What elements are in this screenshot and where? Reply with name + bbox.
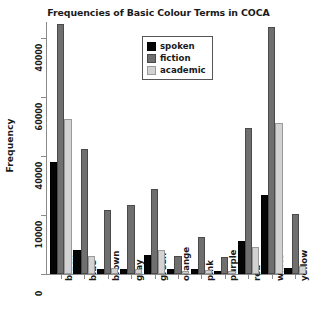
bar-yellow-fiction (292, 214, 299, 274)
bar-group (284, 20, 306, 274)
x-tick-mark (155, 275, 156, 279)
bar-red-fiction (245, 128, 252, 274)
bar-brown-fiction (104, 210, 111, 274)
bar-yellow-academic (299, 266, 306, 274)
bar-pink-spoken (191, 269, 198, 274)
bar-group (97, 20, 119, 274)
bar-blue-academic (88, 256, 95, 274)
legend-item-fiction: fiction (147, 52, 206, 64)
bar-gray-academic (135, 269, 142, 274)
bar-group (50, 20, 72, 274)
legend-swatch-spoken (147, 42, 156, 51)
legend-item-spoken: spoken (147, 40, 206, 52)
legend-swatch-fiction (147, 54, 156, 63)
x-tick-mark (295, 275, 296, 279)
bar-orange-academic (182, 271, 189, 274)
bar-white-fiction (268, 27, 275, 275)
legend-item-academic: academic (147, 64, 206, 76)
bar-group (73, 20, 95, 274)
bar-white-spoken (261, 195, 268, 274)
bar-brown-academic (111, 268, 118, 274)
bar-blue-fiction (81, 149, 88, 274)
bar-white-academic (275, 123, 282, 274)
bar-group (238, 20, 260, 274)
bar-green-fiction (151, 189, 158, 274)
bar-blue-spoken (73, 250, 80, 274)
x-tick-mark (178, 275, 179, 279)
y-tick-label: 10000 (35, 214, 44, 254)
bar-pink-academic (205, 270, 212, 274)
bar-orange-fiction (174, 256, 181, 274)
bar-pink-fiction (198, 237, 205, 274)
x-tick-mark (225, 275, 226, 279)
bar-gray-fiction (127, 205, 134, 274)
bar-green-spoken (144, 255, 151, 274)
bar-yellow-spoken (284, 268, 291, 274)
x-tick-mark (201, 275, 202, 279)
bar-brown-spoken (97, 269, 104, 274)
y-tick-label: 0 (35, 274, 44, 314)
x-tick-mark (61, 275, 62, 279)
bar-black-academic (64, 119, 71, 274)
chart-title: Frequencies of Basic Colour Terms in COC… (0, 7, 317, 18)
y-axis-line (46, 22, 47, 274)
bar-red-academic (252, 247, 259, 274)
legend-label-academic: academic (160, 65, 206, 75)
chart-figure: Frequencies of Basic Colour Terms in COC… (0, 0, 317, 327)
bar-orange-spoken (167, 269, 174, 274)
bar-purple-spoken (214, 271, 221, 274)
x-tick-mark (131, 275, 132, 279)
legend-label-spoken: spoken (160, 41, 195, 51)
bar-red-spoken (238, 241, 245, 274)
bar-group (214, 20, 236, 274)
bar-purple-fiction (221, 257, 228, 274)
y-tick-label: 40000 (35, 37, 44, 77)
x-tick-mark (272, 275, 273, 279)
legend-swatch-academic (147, 66, 156, 75)
x-tick-mark (108, 275, 109, 279)
bar-black-spoken (50, 162, 57, 274)
y-tick-label: 40000 (35, 155, 44, 195)
y-axis-title: Frequency (4, 116, 15, 176)
x-tick-mark (248, 275, 249, 279)
bar-purple-academic (228, 271, 235, 274)
y-tick-label: 60000 (35, 96, 44, 136)
chart-legend: spoken fiction academic (142, 36, 213, 80)
bar-group (120, 20, 142, 274)
bar-black-fiction (57, 24, 64, 274)
bar-green-academic (158, 250, 165, 274)
legend-label-fiction: fiction (160, 53, 191, 63)
x-tick-mark (84, 275, 85, 279)
bar-group (261, 20, 283, 274)
bar-gray-spoken (120, 269, 127, 274)
